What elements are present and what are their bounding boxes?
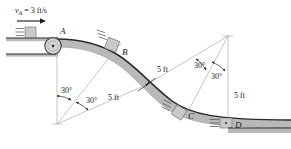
angle-arc-1 [57,96,71,100]
point-label-B: B [122,47,128,57]
velocity-label: vA=3ft/s [15,6,47,16]
dynamics-figure: vA=3ft/s A B C D 5 ft 5 ft 5 ft 30° 30° … [0,0,291,149]
radius-label-right-vertical: 5 ft [234,91,246,100]
pulley-center-dot [52,45,55,48]
angle-label-1: 30° [61,86,72,95]
point-label-D: D [234,120,242,130]
pulley-at-A [45,38,61,54]
velocity-value: 3 [31,6,35,15]
angle-label-4: 30° [211,72,222,81]
figure-canvas: vA=3ft/s A B C D 5 ft 5 ft 5 ft 30° 30° … [0,0,291,149]
block-D-center-dot [225,122,227,124]
velocity-equals: = [24,6,29,15]
velocity-label-group: vA=3ft/s [15,6,47,21]
angle-arc-4 [212,62,225,71]
radius-label-upper-middle: 5 ft [157,65,169,74]
radius-label-lower-left: 5 ft [108,93,120,102]
block-on-left-deck [16,27,36,38]
velocity-units: ft/s [37,6,47,15]
point-label-A: A [59,26,66,36]
left-block-body [25,27,36,38]
block-B-hatch-icon [97,30,107,40]
angle-label-3: 30° [194,61,205,70]
left-block-hatch-icon [16,29,24,36]
velocity-subscript: A [18,10,23,16]
point-label-C: C [188,111,195,121]
block-at-D [210,118,232,128]
angle-label-2: 30° [86,96,97,105]
